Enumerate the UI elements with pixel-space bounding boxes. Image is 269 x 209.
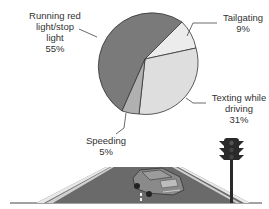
lane-dash bbox=[140, 193, 142, 196]
leader-texting bbox=[186, 98, 206, 103]
label-text: driving bbox=[210, 103, 268, 114]
pie-chart bbox=[98, 13, 198, 115]
label-text: Tailgating bbox=[218, 12, 268, 23]
label-text: light/stop bbox=[26, 21, 84, 32]
label-value: 31% bbox=[210, 114, 268, 125]
leader-speeding bbox=[116, 113, 126, 134]
label-text: Speeding bbox=[84, 135, 128, 146]
label-speeding: Speeding 5% bbox=[84, 135, 128, 157]
label-tailgating: Tailgating 9% bbox=[218, 12, 268, 34]
pie-chart-figure: Running red light/stop light 55% Tailgat… bbox=[0, 0, 269, 209]
lane-dash bbox=[140, 198, 142, 201]
label-texting-while-driving: Texting while driving 31% bbox=[210, 92, 268, 125]
label-value: 5% bbox=[84, 146, 128, 157]
label-value: 9% bbox=[218, 23, 268, 34]
label-text: Running red bbox=[26, 10, 84, 21]
label-running-red-light: Running red light/stop light 55% bbox=[26, 10, 84, 54]
label-value: 55% bbox=[26, 43, 84, 54]
label-text: Texting while bbox=[210, 92, 268, 103]
label-text: light bbox=[26, 32, 84, 43]
leader-tailgating bbox=[187, 23, 217, 36]
